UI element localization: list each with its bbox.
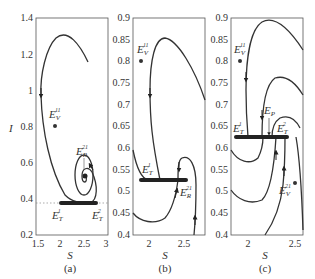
svg-text:0.7: 0.7 (216, 99, 229, 110)
equilibrium-ev21-c (293, 181, 297, 185)
svg-text:1.4: 1.4 (21, 12, 34, 23)
panel-c: 0.4 0.45 0.5 0.55 0.6 0.65 0.7 0.75 0.8 … (211, 12, 304, 275)
svg-text:0.5: 0.5 (216, 185, 229, 196)
x-ticks-b: 2 2.5 (147, 238, 191, 249)
svg-text:2.5: 2.5 (78, 238, 91, 249)
equilibrium-ev11-a (53, 124, 57, 128)
phase-portrait-figure: 0.2 0.4 0.6 0.8 1 1.2 1.4 1.5 2 2.5 3 I … (0, 0, 315, 279)
label-ev11-b: EV11 (136, 42, 149, 57)
svg-text:0.45: 0.45 (113, 207, 131, 218)
svg-text:0.45: 0.45 (211, 207, 229, 218)
label-er21-a: ER21 (75, 144, 88, 159)
y-ticks-c: 0.4 0.45 0.5 0.55 0.6 0.65 0.7 0.75 0.8 … (211, 12, 229, 240)
svg-text:0.65: 0.65 (113, 120, 131, 131)
svg-text:0.4: 0.4 (21, 193, 34, 204)
panel-b: 0.4 0.45 0.5 0.55 0.6 0.65 0.7 0.75 0.8 … (113, 12, 206, 275)
svg-text:0.4: 0.4 (118, 229, 131, 240)
svg-text:0.55: 0.55 (113, 164, 131, 175)
svg-text:1: 1 (28, 85, 33, 96)
svg-text:0.75: 0.75 (113, 77, 131, 88)
label-et1-c: ET1 (232, 121, 245, 136)
label-er21-b: ER21 (179, 185, 192, 200)
svg-text:0.4: 0.4 (216, 229, 229, 240)
x-axis-label-a: S (67, 249, 73, 261)
label-et1-b: ET1 (141, 162, 154, 177)
svg-text:2: 2 (246, 238, 251, 249)
y-ticks-b: 0.4 0.45 0.5 0.55 0.6 0.65 0.7 0.75 0.8 … (113, 12, 131, 240)
svg-text:2.5: 2.5 (289, 238, 302, 249)
equilibrium-ev11-c (238, 59, 242, 63)
svg-text:0.9: 0.9 (216, 12, 229, 23)
svg-text:0.8: 0.8 (118, 55, 131, 66)
svg-text:0.6: 0.6 (216, 142, 229, 153)
x-axis-label-b: S (162, 249, 168, 261)
trajectory-c5 (231, 137, 276, 202)
label-et1-a: ET1 (51, 208, 64, 223)
label-ev21-c: EV21 (278, 183, 291, 198)
label-ev11-c: EV11 (233, 42, 246, 57)
label-ev11-a: EV11 (48, 107, 61, 122)
svg-text:0.6: 0.6 (21, 157, 34, 168)
y-axis-label-a: I (8, 122, 14, 134)
caption-a: (a) (64, 262, 77, 275)
label-et2-c: ET2 (276, 121, 289, 136)
svg-text:2: 2 (58, 238, 63, 249)
y-ticks-a: 0.2 0.4 0.6 0.8 1 1.2 1.4 (21, 12, 34, 240)
svg-text:0.75: 0.75 (211, 77, 229, 88)
svg-text:0.65: 0.65 (211, 120, 229, 131)
caption-c: (c) (259, 262, 272, 275)
caption-b: (b) (159, 262, 172, 275)
label-ep-c: EP (263, 104, 276, 118)
label-et2-a: ET2 (91, 208, 104, 223)
panel-a: 0.2 0.4 0.6 0.8 1 1.2 1.4 1.5 2 2.5 3 I … (8, 12, 109, 275)
svg-text:1.2: 1.2 (21, 49, 34, 60)
svg-text:3: 3 (104, 238, 109, 249)
svg-text:0.7: 0.7 (118, 99, 131, 110)
x-ticks-a: 1.5 2 2.5 3 (32, 238, 109, 249)
trajectory-b3 (133, 180, 178, 222)
trajectory-c4 (231, 137, 263, 162)
svg-text:0.5: 0.5 (118, 185, 131, 196)
svg-text:1.5: 1.5 (32, 238, 45, 249)
svg-text:0.55: 0.55 (211, 164, 229, 175)
equilibrium-er-a (83, 174, 88, 179)
svg-text:2: 2 (147, 238, 152, 249)
svg-text:0.9: 0.9 (118, 12, 131, 23)
svg-text:0.85: 0.85 (113, 34, 131, 45)
trajectory-b1 (150, 38, 205, 180)
svg-text:2.5: 2.5 (178, 238, 191, 249)
svg-text:0.8: 0.8 (216, 55, 229, 66)
svg-text:0.8: 0.8 (21, 121, 34, 132)
x-axis-label-c: S (262, 249, 268, 261)
x-ticks-c: 2 2.5 (246, 238, 302, 249)
trajectory-c7 (296, 137, 303, 230)
equilibrium-ev11-b (139, 59, 143, 63)
svg-text:0.6: 0.6 (118, 142, 131, 153)
svg-text:0.85: 0.85 (211, 34, 229, 45)
